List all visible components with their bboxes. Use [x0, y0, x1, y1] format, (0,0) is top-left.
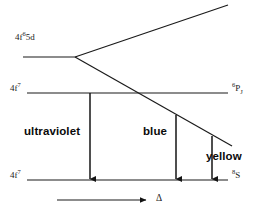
- level-label-4f7-ground-superscript: 7: [18, 168, 21, 175]
- delta-axis-label: Δ: [156, 194, 162, 204]
- level-label-4f65d: 4f65d: [15, 33, 35, 42]
- level-label-4f7-ground: 4f7: [10, 171, 21, 180]
- diagram-canvas: [0, 0, 260, 213]
- level-label-4f7-excited-superscript: 7: [18, 81, 21, 88]
- level-label-4f7-excited-base: 4f: [10, 83, 18, 93]
- level-label-4f7-ground-base: 4f: [10, 170, 18, 180]
- term-symbol-8s-letter: S: [235, 170, 240, 180]
- level-label-4f65d-tail: 5d: [26, 32, 35, 42]
- energy-level-diagram: 4f65d 4f7 4f7 6PJ 8S ultraviolet blue ye…: [0, 0, 260, 213]
- branch-line-upper: [75, 5, 228, 57]
- term-symbol-6pj: 6PJ: [232, 84, 243, 93]
- level-label-4f7-excited: 4f7: [10, 84, 21, 93]
- term-symbol-6pj-subscript: J: [240, 88, 243, 95]
- term-symbol-8s: 8S: [232, 171, 240, 180]
- transition-label-ultraviolet: ultraviolet: [24, 126, 80, 138]
- level-label-4f65d-base: 4f: [15, 32, 23, 42]
- transition-label-yellow: yellow: [206, 151, 242, 163]
- transition-label-blue: blue: [143, 126, 167, 138]
